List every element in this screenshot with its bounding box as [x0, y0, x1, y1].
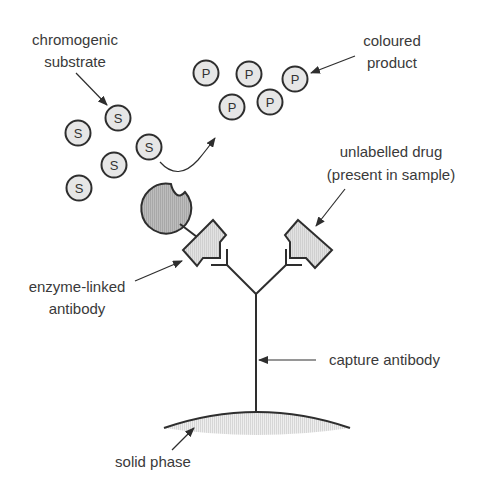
label-line-2: (present in sample): [327, 166, 455, 183]
svg-text:S: S: [110, 158, 119, 173]
label-line-1: chromogenic: [32, 31, 118, 48]
enzyme-linked-antigen-icon: [183, 220, 226, 266]
product-molecule: P: [258, 90, 283, 115]
svg-text:S: S: [74, 126, 83, 141]
arrow-to-product: [311, 56, 355, 73]
conversion-arrow: [160, 138, 215, 172]
svg-text:P: P: [245, 67, 254, 82]
svg-text:P: P: [291, 72, 300, 87]
enzyme-linker: [180, 224, 197, 237]
product-molecule: P: [237, 62, 262, 87]
substrate-molecule: S: [137, 135, 162, 160]
product-molecule: P: [194, 61, 219, 86]
svg-text:P: P: [228, 100, 237, 115]
svg-text:S: S: [75, 181, 84, 196]
substrate-molecule: S: [67, 176, 92, 201]
label-line-1: enzyme-linked: [29, 278, 126, 295]
label-text: capture antibody: [329, 351, 440, 368]
label-line-2: substrate: [44, 53, 106, 70]
label-enzyme-linked-antibody: enzyme-linked antibody: [29, 261, 182, 317]
svg-text:S: S: [145, 140, 154, 155]
arrow-to-enzyme-antibody: [135, 261, 182, 281]
label-capture-antibody: capture antibody: [259, 351, 440, 368]
product-molecule: P: [283, 67, 308, 92]
label-line-2: antibody: [49, 300, 106, 317]
substrate-molecule: S: [66, 121, 91, 146]
unlabelled-drug-icon: [285, 220, 332, 268]
label-chromogenic-substrate: chromogenic substrate: [32, 31, 118, 105]
substrate-molecule: S: [106, 106, 131, 131]
label-coloured-product: coloured product: [311, 32, 421, 73]
product-molecule: P: [220, 95, 245, 120]
label-solid-phase: solid phase: [115, 428, 194, 470]
svg-text:P: P: [266, 95, 275, 110]
svg-text:S: S: [114, 111, 123, 126]
svg-text:P: P: [202, 66, 211, 81]
solid-phase-icon: [164, 412, 350, 435]
elisa-diagram: chromogenic substrate S S S S S: [0, 0, 481, 493]
label-line-2: product: [367, 54, 418, 71]
label-line-1: unlabelled drug: [340, 143, 443, 160]
substrate-molecule: S: [102, 153, 127, 178]
capture-antibody-icon: [211, 249, 302, 412]
product-molecules: P P P P P: [194, 61, 308, 120]
label-text: solid phase: [115, 453, 191, 470]
substrate-molecules: S S S S S: [66, 106, 162, 201]
label-unlabelled-drug: unlabelled drug (present in sample): [316, 143, 455, 226]
arrow-to-substrate: [76, 73, 107, 105]
arrow-to-drug: [316, 189, 345, 226]
label-line-1: coloured: [363, 32, 421, 49]
arrow-to-solid-phase: [172, 428, 194, 450]
